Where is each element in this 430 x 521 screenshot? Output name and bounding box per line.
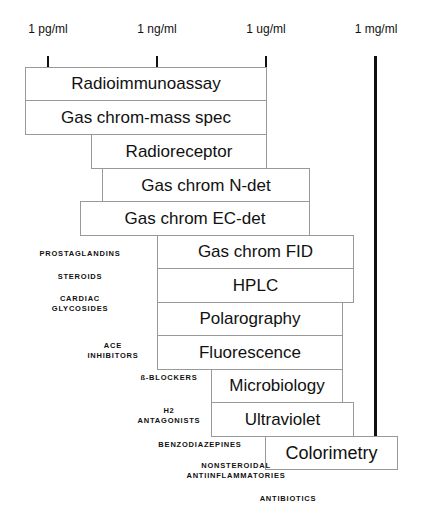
drug-nsaids: NONSTEROIDAL ANTIINFLAMMATORIES — [186, 461, 285, 481]
drug-steroids: STEROIDS — [58, 272, 103, 282]
axis-label-pg: 1 pg/ml — [28, 22, 67, 36]
mg-line — [374, 56, 377, 436]
method-microbiology: Microbiology — [211, 369, 343, 403]
method-gc-mass-spec: Gas chrom-mass spec — [25, 100, 267, 135]
drug-cardiac-glycosides: CARDIAC GLYCOSIDES — [52, 294, 109, 314]
method-radioimmunoassay: Radioimmunoassay — [25, 67, 267, 101]
drug-benzodiazepines: BENZODIAZEPINES — [158, 440, 241, 450]
tick-ug — [265, 56, 267, 67]
method-gc-n-det: Gas chrom N-det — [102, 168, 310, 203]
axis-label-mg: 1 mg/ml — [355, 22, 398, 36]
drug-h2-antagonists: H2 ANTAGONISTS — [138, 406, 201, 426]
method-polarography: Polarography — [157, 302, 343, 336]
tick-ng — [156, 56, 158, 67]
axis-label-ug: 1 ug/ml — [246, 22, 285, 36]
method-hplc: HPLC — [157, 268, 354, 303]
tick-pg — [47, 56, 49, 67]
drug-antibiotics: ANTIBIOTICS — [260, 494, 317, 504]
axis-label-ng: 1 ng/ml — [137, 22, 176, 36]
drug-prostaglandins: PROSTAGLANDINS — [39, 249, 120, 259]
method-fluorescence: Fluorescence — [157, 335, 343, 370]
method-gc-ec-det: Gas chrom EC-det — [80, 201, 310, 236]
drug-beta-blockers: ß-BLOCKERS — [140, 373, 197, 383]
drug-ace-inhibitors: ACE INHIBITORS — [87, 341, 138, 361]
method-radioreceptor: Radioreceptor — [91, 134, 267, 169]
method-ultraviolet: Ultraviolet — [211, 402, 354, 437]
method-gc-fid: Gas chrom FID — [157, 235, 354, 269]
